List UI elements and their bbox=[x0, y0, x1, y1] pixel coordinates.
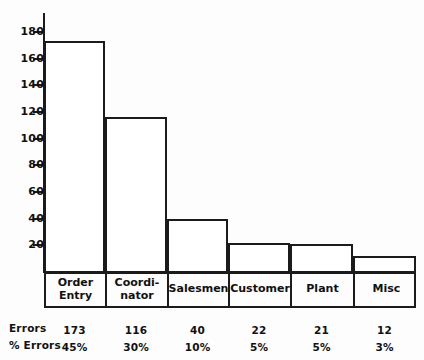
errors-value: 22 bbox=[228, 322, 290, 338]
y-tick-label: 160 bbox=[14, 53, 44, 64]
errors-value: 116 bbox=[105, 322, 167, 338]
y-tick-label: 40 bbox=[14, 213, 44, 224]
percent-errors-value: 10% bbox=[167, 339, 228, 355]
category-label: Order Entry bbox=[46, 273, 107, 306]
errors-row-cells: 17311640222112 bbox=[44, 322, 416, 338]
bar bbox=[290, 244, 353, 274]
bar bbox=[167, 219, 228, 274]
category-label-row: Order EntryCoordi- natorSalesmenCustomer… bbox=[44, 271, 416, 308]
y-tick-label: 100 bbox=[14, 133, 44, 144]
errors-row-label: Errors bbox=[9, 322, 46, 334]
category-label: Coordi- nator bbox=[107, 273, 169, 306]
bar bbox=[105, 117, 167, 274]
percent-errors-value: 5% bbox=[228, 339, 290, 355]
category-label: Misc bbox=[355, 273, 418, 306]
category-label: Customer bbox=[230, 273, 292, 306]
errors-value: 21 bbox=[290, 322, 353, 338]
y-tick-label: 120 bbox=[14, 106, 44, 117]
errors-value: 12 bbox=[353, 322, 416, 338]
percent-errors-value: 3% bbox=[353, 339, 416, 355]
errors-value: 40 bbox=[167, 322, 228, 338]
category-label: Plant bbox=[292, 273, 355, 306]
y-tick-label: 60 bbox=[14, 186, 44, 197]
percent-errors-value: 5% bbox=[290, 339, 353, 355]
y-tick-label: 180 bbox=[14, 26, 44, 37]
category-label: Salesmen bbox=[169, 273, 230, 306]
y-tick-label: 80 bbox=[14, 159, 44, 170]
pareto-chart: 20406080100120140160180 Order EntryCoord… bbox=[0, 0, 424, 360]
bar bbox=[44, 41, 105, 274]
percent-errors-value: 45% bbox=[44, 339, 105, 355]
y-tick-label: 20 bbox=[14, 239, 44, 250]
y-tick-label: 140 bbox=[14, 79, 44, 90]
percent-errors-row: % Errors 45%30%10%5%5%3% bbox=[0, 339, 424, 355]
bar bbox=[228, 243, 290, 274]
errors-value: 173 bbox=[44, 322, 105, 338]
errors-row: Errors 17311640222112 bbox=[0, 322, 424, 338]
percent-errors-row-cells: 45%30%10%5%5%3% bbox=[44, 339, 416, 355]
percent-errors-value: 30% bbox=[105, 339, 167, 355]
plot-area: 20406080100120140160180 bbox=[0, 0, 424, 312]
